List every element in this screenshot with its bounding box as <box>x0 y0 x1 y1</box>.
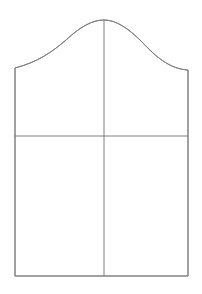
pattern-svg <box>0 0 202 294</box>
canvas-background <box>0 0 202 294</box>
pattern-drawing-canvas <box>0 0 202 294</box>
